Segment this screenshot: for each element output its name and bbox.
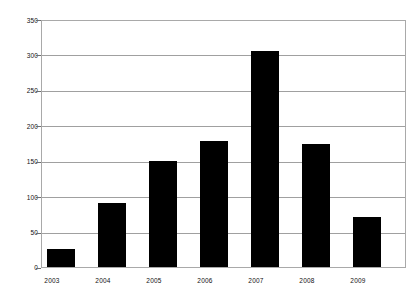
x-axis-tick-label-2006: 2006 xyxy=(179,277,231,285)
bar-2006 xyxy=(200,141,228,267)
y-axis-tick-label: 250 xyxy=(2,87,38,94)
y-axis-tick-label: 300 xyxy=(2,52,38,59)
bar-2004 xyxy=(98,203,126,268)
bar-chart: 350 300 250 200 150 100 50 0 2003 2004 2… xyxy=(0,0,419,302)
bar-2005 xyxy=(149,161,177,267)
y-axis-tick-label: 0 xyxy=(2,264,38,271)
plot-area xyxy=(41,20,406,268)
bar-2003 xyxy=(47,249,75,267)
gridline xyxy=(42,55,405,56)
x-axis-tick-label-2005: 2005 xyxy=(128,277,180,285)
bar-2007 xyxy=(251,51,279,267)
y-axis-tick-label: 200 xyxy=(2,123,38,130)
bar-2008 xyxy=(302,144,330,267)
y-axis-tick-label: 100 xyxy=(2,194,38,201)
x-axis-tick-label-2008: 2008 xyxy=(281,277,333,285)
bar-2009 xyxy=(353,217,381,267)
y-axis-tick-label: 150 xyxy=(2,158,38,165)
x-axis-tick-label-2009: 2009 xyxy=(332,277,384,285)
x-axis-tick-label-2003: 2003 xyxy=(26,277,78,285)
x-axis-tick-label-2007: 2007 xyxy=(230,277,282,285)
gridline xyxy=(42,126,405,127)
gridline xyxy=(42,91,405,92)
y-axis-tick-mark xyxy=(36,268,41,269)
x-axis-tick-label-2004: 2004 xyxy=(77,277,129,285)
y-axis-tick-label: 50 xyxy=(2,229,38,236)
y-axis-tick-label: 350 xyxy=(2,17,38,24)
